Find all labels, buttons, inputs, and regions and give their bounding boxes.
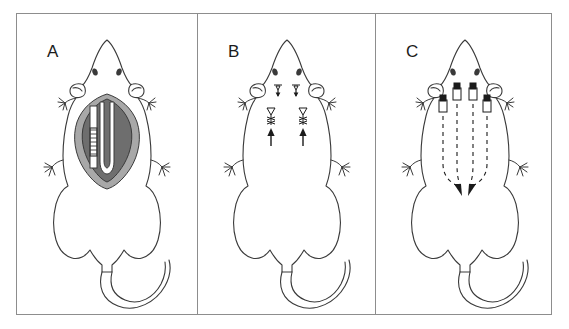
rat-ear-right-a [129, 84, 144, 98]
implant-2-c [453, 83, 461, 100]
rat-diagram-c [390, 24, 540, 309]
implant-1-c [439, 95, 447, 112]
panel-b: B [197, 14, 375, 314]
rat-body-outline-b [233, 40, 340, 272]
rat-hindpaw-right-b [331, 160, 350, 176]
implant-4-c [483, 95, 491, 112]
panel-c: C [375, 14, 553, 314]
figure-root: A [0, 0, 569, 329]
implant-3-c [469, 83, 477, 100]
figure-frame: A [16, 13, 552, 315]
rat-ear-left-a [70, 84, 85, 98]
panel-a: A [17, 14, 197, 314]
rat-hindpaw-right-c [509, 160, 528, 176]
rat-hindpaw-right-a [151, 160, 170, 176]
rat-diagram-b [212, 24, 362, 309]
rat-diagram-a [32, 24, 182, 309]
rat-hindpaw-left-c [402, 160, 421, 176]
rat-hindpaw-left-a [44, 160, 63, 176]
rat-ear-left-b [250, 84, 265, 98]
rat-hindpaw-left-b [224, 160, 243, 176]
rat-ear-right-b [308, 84, 323, 98]
graduated-probe-a [90, 106, 97, 168]
rat-body-outline-c [411, 40, 518, 272]
